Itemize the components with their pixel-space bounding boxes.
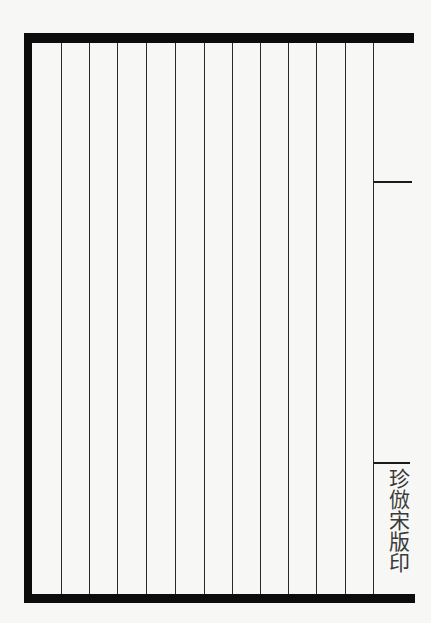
column-rule: [117, 43, 118, 594]
column-rule: [204, 43, 205, 594]
column-rule: [175, 43, 176, 594]
frame-top-border: [24, 33, 414, 43]
frame-left-border: [24, 33, 32, 603]
column-rule: [89, 43, 90, 594]
column-rule: [345, 43, 346, 594]
fold-margin-text: 珍倣宋版印: [380, 468, 410, 573]
column-rule: [288, 43, 289, 594]
column-rule: [232, 43, 233, 594]
column-rule: [260, 43, 261, 594]
document-page: 珍倣宋版印: [0, 0, 431, 623]
frame-bottom-border: [24, 594, 415, 603]
column-rule: [61, 43, 62, 594]
fold-lower-tick: [374, 462, 410, 464]
center-fold-rule: [373, 43, 374, 594]
column-rule: [146, 43, 147, 594]
column-rule: [316, 43, 317, 594]
fold-upper-tick: [374, 181, 412, 183]
